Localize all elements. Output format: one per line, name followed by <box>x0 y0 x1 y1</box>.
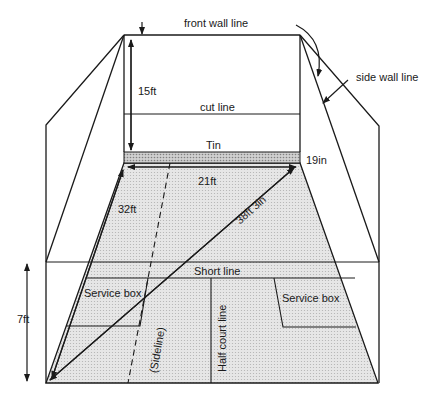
tin-height-label: 19in <box>306 155 327 166</box>
half-court-line-label: Half court line <box>217 305 228 372</box>
court-length-label: 32ft <box>118 204 136 215</box>
cut-line-label: cut line <box>200 102 235 113</box>
back-wall-height-label: 7ft <box>17 314 29 325</box>
tin-band <box>124 152 300 163</box>
tin-label: Tin <box>206 140 221 151</box>
squash-court-diagram: front wall line side wall line 15ft cut … <box>0 0 442 405</box>
service-box-right-label: Service box <box>282 293 339 304</box>
side-wall-line-pointer <box>323 80 348 103</box>
service-box-left-label: Service box <box>84 288 141 299</box>
short-line-label: Short line <box>194 266 240 277</box>
front-wall-line-label: front wall line <box>184 18 248 29</box>
court-width-label: 21ft <box>198 176 216 187</box>
front-wall-height-label: 15ft <box>138 86 156 97</box>
side-wall-line-label: side wall line <box>356 72 418 83</box>
